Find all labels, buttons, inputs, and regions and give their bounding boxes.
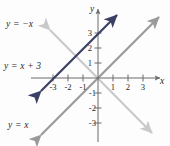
x-tick-label-2: 2 <box>126 82 130 92</box>
line-y-equals-x-plus-3 <box>41 15 117 91</box>
x-tick-label--1: -1 <box>79 82 86 92</box>
x-tick-label--3: -3 <box>49 82 56 92</box>
y-tick-label--3: -3 <box>89 118 96 128</box>
x-tick-label-3: 3 <box>141 82 145 92</box>
y-tick-label-1: 1 <box>88 58 92 68</box>
x-tick-label--2: -2 <box>64 82 71 92</box>
equation-label-y-equals-x: y = x <box>8 120 29 130</box>
equation-label-y-equals-neg-x: y = −x <box>6 19 33 29</box>
y-tick-label--2: -2 <box>89 103 96 113</box>
y-tick-label-2: 2 <box>88 43 92 53</box>
line-y-equals-x <box>41 17 159 135</box>
x-axis-label: x <box>159 76 165 86</box>
y-tick-label--1: -1 <box>89 88 96 98</box>
x-tick-label-1: 1 <box>111 82 115 92</box>
equation-label-y-equals-x-plus-3: y = x + 3 <box>4 61 41 71</box>
y-tick-label-3: 3 <box>88 28 92 38</box>
y-axis-label: y <box>89 4 95 14</box>
coordinate-plane-figure: -3 -2 -1 1 2 3 3 2 1 -1 -2 -3 x y y = −x… <box>0 0 170 146</box>
